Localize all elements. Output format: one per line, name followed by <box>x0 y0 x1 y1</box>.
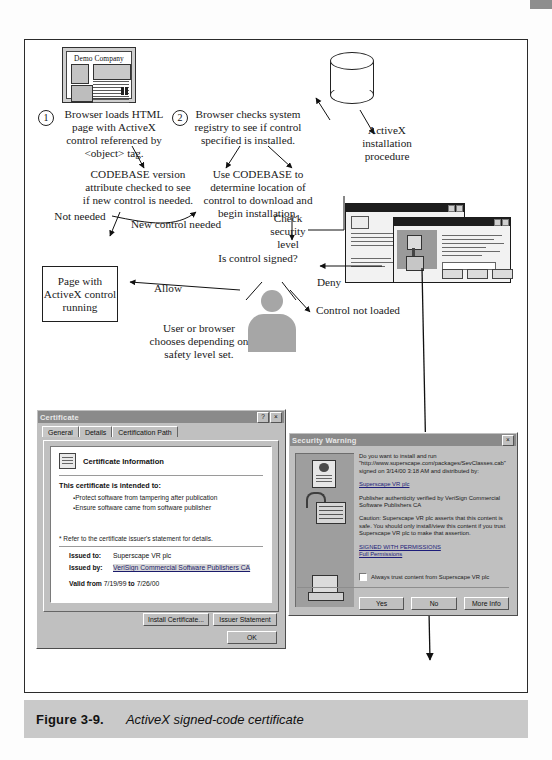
intended-to-list: Protect software from tampering after pu… <box>73 493 263 513</box>
validity-row: Valid from 7/19/99 to 7/26/00 <box>69 580 263 587</box>
valid-to-label: to <box>128 580 134 587</box>
tab-details[interactable]: Details <box>79 426 112 437</box>
page-with-activex-running-box: Page with ActiveX control running <box>42 266 118 322</box>
certificate-tabstrip[interactable]: General Details Certification Path <box>42 426 285 437</box>
signed-with-permissions-link[interactable]: SIGNED WITH PERMISSIONS <box>359 544 441 550</box>
divider <box>297 587 509 588</box>
figure-caption-bar: Figure 3-9. ActiveX signed-code certific… <box>24 700 528 738</box>
caution-text: Caution: Superscape VR plc asserts that … <box>359 515 510 537</box>
intended-to-label: This certificate is intended to: <box>59 481 263 490</box>
certificate-tab-body: Certificate Information This certificate… <box>43 440 279 612</box>
demo-company-title: Demo Company <box>67 54 131 63</box>
always-trust-checkbox[interactable] <box>359 573 367 581</box>
activex-install-illustration <box>345 195 515 287</box>
page-with-activex-running-label: Page with ActiveX control running <box>43 275 117 314</box>
certificate-titlebar[interactable]: Certificate ? × <box>38 411 284 423</box>
security-warning-dialog[interactable]: Security Warning × Do you want to instal… <box>288 432 518 616</box>
issued-by-row: Issued by: VeriSign Commercial Software … <box>69 564 263 571</box>
deny-edge-label: Deny <box>312 276 346 289</box>
install-window-front-buttons <box>442 269 513 279</box>
install-window-graphic-panel <box>397 230 437 269</box>
issued-to-row: Issued to: Superscape VR plc <box>69 552 263 559</box>
demo-image-placeholder2-icon <box>71 85 93 102</box>
install-window-front-titlebar <box>394 218 510 226</box>
certificate-info-panel: Certificate Information This certificate… <box>50 446 272 603</box>
valid-to-value: 7/26/00 <box>137 580 160 587</box>
demo-browser-window: Demo Company <box>62 47 136 103</box>
user-silhouette-icon <box>248 290 296 350</box>
step-2-text: Browser checks system registry to see if… <box>188 108 308 147</box>
valid-from-label: Valid from <box>69 580 102 587</box>
step-1-text: Browser loads HTML page with ActiveX con… <box>55 108 173 160</box>
issued-to-label: Issued to: <box>69 552 113 559</box>
full-permissions-link[interactable]: Full Permissions <box>359 551 402 557</box>
issued-to-value: Superscape VR plc <box>113 552 171 559</box>
tab-certification-path[interactable]: Certification Path <box>112 426 177 437</box>
allow-edge-label: Allow <box>146 282 190 295</box>
page-corner-mark <box>530 0 552 9</box>
security-warning-graphic <box>295 453 354 607</box>
install-certificate-button[interactable]: Install Certificate... <box>143 613 209 626</box>
divider <box>59 475 263 476</box>
divider-2 <box>59 546 263 547</box>
issued-by-value: VeriSign Commercial Software Publishers … <box>113 564 250 571</box>
intended-item-0: Protect software from tampering after pu… <box>73 493 263 503</box>
lock-icon <box>302 490 348 524</box>
help-button[interactable]: ? <box>257 412 269 423</box>
publisher-link[interactable]: Superscape VR plc <box>359 481 409 487</box>
install-window-back-titlebar <box>346 204 464 212</box>
new-control-needed-edge-label: New control needed <box>128 218 224 231</box>
tab-general[interactable]: General <box>42 426 79 437</box>
more-info-button[interactable]: More Info <box>464 597 509 610</box>
security-warning-buttons: Yes No More Info <box>359 597 509 610</box>
check-security-level-node: Check security level <box>262 212 314 251</box>
issuer-statement-button[interactable]: Issuer Statement <box>213 613 277 626</box>
certificate-icon <box>59 453 76 469</box>
demo-book-icon <box>121 87 128 95</box>
is-control-signed-node: Is control signed? <box>210 252 306 265</box>
certificate-info-heading: Certificate Information <box>83 457 164 466</box>
ok-button[interactable]: OK <box>227 631 277 644</box>
user-or-browser-node: User or browser chooses depending on saf… <box>148 322 250 361</box>
authenticity-text: Publisher authenticity verified by VeriS… <box>359 495 510 510</box>
database-cylinder-icon <box>330 52 374 104</box>
step-2-number: 2 <box>172 110 188 126</box>
install-window-front <box>393 217 511 283</box>
figure-caption: ActiveX signed-code certificate <box>126 712 304 727</box>
figure-page: Demo Company <box>0 0 552 760</box>
close-icon[interactable]: × <box>270 412 282 423</box>
always-trust-label: Always trust content from Superscape VR … <box>371 574 489 580</box>
no-button[interactable]: No <box>411 597 456 610</box>
certificate-info-header: Certificate Information <box>59 453 263 469</box>
certificate-document-icon <box>312 460 336 488</box>
codebase-version-node: CODEBASE version attribute checked to se… <box>82 168 194 207</box>
intended-item-1: Ensure software came from software publi… <box>73 503 263 513</box>
figure-number: Figure 3-9. <box>36 712 104 727</box>
certificate-dialog[interactable]: Certificate ? × General Details Certific… <box>36 409 286 649</box>
not-needed-edge-label: Not needed <box>50 210 110 223</box>
issued-by-label: Issued by: <box>69 564 113 571</box>
demo-image-placeholder-icon <box>71 64 89 84</box>
activex-install-procedure-label: ActiveX installation procedure <box>350 124 424 163</box>
step-1-number: 1 <box>38 110 54 126</box>
security-warning-titlebar[interactable]: Security Warning × <box>290 434 516 446</box>
control-not-loaded-node: Control not loaded <box>308 304 408 317</box>
install-window-front-lines <box>442 232 506 259</box>
install-question: Do you want to install and run "http://w… <box>359 453 510 475</box>
certificate-title: Certificate <box>40 413 256 422</box>
security-warning-title: Security Warning <box>292 436 501 445</box>
valid-from-value: 7/19/99 <box>104 580 127 587</box>
always-trust-row[interactable]: Always trust content from Superscape VR … <box>359 573 489 581</box>
close-icon[interactable]: × <box>502 435 514 446</box>
security-warning-body: Do you want to install and run "http://w… <box>359 453 510 585</box>
issuer-footnote: * Refer to the certificate issuer's stat… <box>59 535 263 542</box>
demo-activex-control-box <box>93 64 131 80</box>
demo-browser-canvas: Demo Company <box>66 51 132 99</box>
yes-button[interactable]: Yes <box>359 597 404 610</box>
computer-icon <box>308 575 342 601</box>
